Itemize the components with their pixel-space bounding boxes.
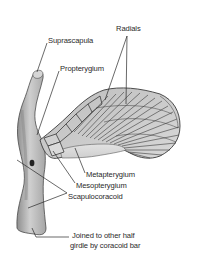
label-coracoid-note-line1: Joined to other half [72,231,135,240]
pectoral-fin-diagram: Radials Suprascapula Propterygium Metapt… [0,0,198,261]
label-metapterygium: Metapterygium [86,170,135,179]
label-scapulocoracoid: Scapulocoracoid [68,192,123,201]
scapulocoracoid-shape [17,70,46,234]
label-propterygium: Propterygium [60,64,104,73]
label-suprascapula: Suprascapula [48,36,93,45]
label-coracoid-note-line2: girdle by coracoid bar [70,241,140,250]
label-radials: Radials [116,24,141,33]
fin-shape [40,88,180,158]
label-mesopterygium: Mesopterygium [76,181,127,190]
diagram-artwork [0,0,198,261]
